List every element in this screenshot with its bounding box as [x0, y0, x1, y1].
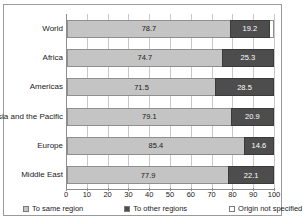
legend-item[interactable]: To other regions	[124, 205, 187, 213]
bar-segment-to-other-regions: 28.5	[215, 78, 274, 96]
bar-segment-origin-not-specified	[270, 20, 274, 38]
gridline	[253, 14, 254, 189]
bar-row: Africa74.725.3	[67, 49, 274, 67]
bar-value-label: 20.9	[245, 113, 260, 121]
bar-segment-to-same-region: 79.1	[67, 108, 231, 126]
bar-value-label: 78.7	[142, 25, 157, 33]
bar-segment-to-other-regions: 14.6	[244, 137, 274, 155]
gridline	[108, 14, 109, 189]
legend-label: To other regions	[133, 205, 187, 213]
x-tick-label: 0	[64, 191, 68, 199]
category-label: Middle East	[21, 171, 63, 179]
x-tick-label: 100	[268, 191, 281, 199]
bar-row: Europe85.414.6	[67, 137, 274, 155]
bar-value-label: 85.4	[149, 142, 164, 150]
legend-swatch-icon	[23, 206, 29, 212]
x-tick-label: 60	[187, 191, 195, 199]
bar-value-label: 28.5	[237, 84, 252, 92]
bar-value-label: 22.1	[244, 172, 259, 180]
bar-segment-to-other-regions: 25.3	[222, 49, 274, 67]
chart-legend: To same regionTo other regionsOrigin not…	[9, 203, 276, 215]
bar-value-label: 79.1	[142, 113, 157, 121]
x-axis: 0102030405060708090100	[66, 191, 274, 202]
category-label: Asia and the Pacific	[0, 113, 63, 121]
plot-area: World78.719.2Africa74.725.3Americas71.52…	[66, 14, 274, 190]
bar-segment-to-same-region: 77.9	[67, 166, 228, 184]
bar-segment-to-same-region: 85.4	[67, 137, 244, 155]
x-tick-label: 30	[124, 191, 132, 199]
bar-row: Asia and the Pacific79.120.9	[67, 108, 274, 126]
x-tick-label: 80	[228, 191, 236, 199]
bar-row: Americas71.528.5	[67, 78, 274, 96]
legend-item[interactable]: Origin not specified	[229, 205, 286, 213]
category-label: Americas	[30, 83, 63, 91]
x-tick-label: 70	[207, 191, 215, 199]
bar-segment-to-same-region: 74.7	[67, 49, 222, 67]
x-tick-label: 20	[103, 191, 111, 199]
category-label: World	[42, 25, 63, 33]
bar-value-label: 74.7	[138, 54, 153, 62]
bar-row: Middle East77.922.1	[67, 166, 274, 184]
bar-value-label: 14.6	[252, 142, 267, 150]
gridline	[191, 14, 192, 189]
category-label: Europe	[37, 142, 63, 150]
gridline	[232, 14, 233, 189]
x-tick-label: 10	[83, 191, 91, 199]
gridline	[87, 14, 88, 189]
x-tick-label: 40	[145, 191, 153, 199]
bar-segment-to-other-regions: 20.9	[231, 108, 274, 126]
bar-segment-to-other-regions: 19.2	[230, 20, 270, 38]
bar-segment-to-same-region: 78.7	[67, 20, 230, 38]
bar-segment-to-same-region: 71.5	[67, 78, 215, 96]
gridline	[149, 14, 150, 189]
legend-label: To same region	[32, 205, 83, 213]
gridline	[274, 14, 275, 189]
bar-value-label: 25.3	[241, 54, 256, 62]
gridline	[212, 14, 213, 189]
bar-value-label: 19.2	[242, 25, 257, 33]
legend-item[interactable]: To same region	[23, 205, 83, 213]
gridline	[170, 14, 171, 189]
chart-container: World78.719.2Africa74.725.3Americas71.52…	[3, 4, 282, 216]
bar-segment-to-other-regions: 22.1	[228, 166, 274, 184]
x-tick-label: 90	[249, 191, 257, 199]
gridline	[128, 14, 129, 189]
category-label: Africa	[43, 54, 63, 62]
legend-label: Origin not specified	[238, 205, 286, 213]
legend-swatch-icon	[229, 206, 235, 212]
bar-value-label: 71.5	[134, 84, 149, 92]
bar-value-label: 77.9	[141, 172, 156, 180]
bar-row: World78.719.2	[67, 20, 274, 38]
x-tick-label: 50	[166, 191, 174, 199]
legend-swatch-icon	[124, 206, 130, 212]
